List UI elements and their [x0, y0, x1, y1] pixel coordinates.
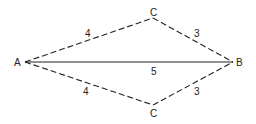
- edge-c-bottom-b: [153, 62, 233, 105]
- point-label-a: A: [14, 57, 21, 68]
- edge-label-a-c-top: 4: [85, 28, 91, 39]
- edge-a-c-bottom: [25, 62, 153, 105]
- point-label-c-bottom: C: [150, 108, 157, 119]
- edge-c-top-b: [153, 18, 233, 62]
- edge-a-c-top: [25, 18, 153, 62]
- point-label-b: B: [236, 57, 243, 68]
- point-label-c-top: C: [150, 7, 157, 18]
- triangle-diagram: A B C C 5 4 3 4 3: [0, 0, 256, 124]
- edge-label-a-b: 5: [151, 66, 157, 77]
- edge-label-c-top-b: 3: [194, 28, 200, 39]
- edge-label-c-bottom-b: 3: [194, 86, 200, 97]
- edge-label-a-c-bottom: 4: [83, 86, 89, 97]
